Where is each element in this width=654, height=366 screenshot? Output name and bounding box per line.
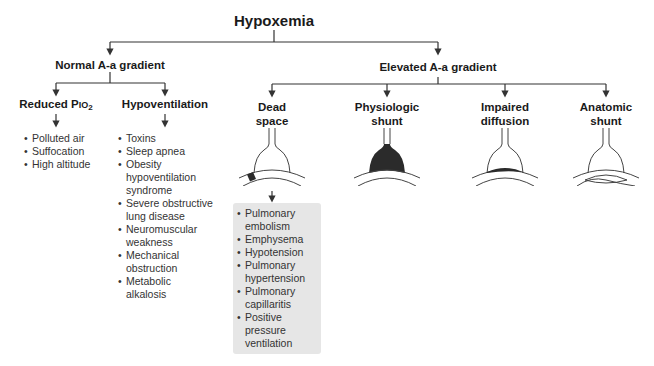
- normal-aa-gradient-node: Normal A-a gradient: [40, 58, 180, 72]
- list-item: Metabolic alkalosis: [118, 275, 214, 301]
- reduced-pio2-causes-list: Polluted air Suffocation High altitude: [24, 132, 104, 171]
- list-item: Suffocation: [24, 145, 104, 158]
- dead-space-label-line1: Dead: [232, 100, 312, 114]
- list-item: High altitude: [24, 158, 104, 171]
- elevated-aa-gradient-node: Elevated A-a gradient: [368, 60, 508, 74]
- list-item: Pulmonary capillaritis: [237, 285, 317, 311]
- reduced-pio2-node: Reduced PIO2: [6, 97, 106, 115]
- reduced-pio2-label: Reduced P: [19, 98, 78, 110]
- dead-space-label-line2: space: [232, 114, 312, 128]
- list-item: Pulmonary hypertension: [237, 259, 317, 285]
- anatomic-shunt-label-line1: Anatomic: [566, 100, 646, 114]
- list-item: Neuromuscular weakness: [118, 223, 214, 249]
- impaired-diffusion-label-line1: Impaired: [460, 100, 550, 114]
- alveolus-bypass-shunt-icon: [571, 128, 641, 186]
- list-item: Obesity hypoventilation syndrome: [118, 158, 214, 197]
- impaired-diffusion-label-line2: diffusion: [460, 114, 550, 128]
- impaired-diffusion-node: Impaired diffusion: [460, 100, 550, 128]
- list-item: Polluted air: [24, 132, 104, 145]
- dead-space-causes-box: Pulmonary embolism Emphysema Hypotension…: [233, 203, 321, 354]
- dead-space-causes-list: Pulmonary embolism Emphysema Hypotension…: [237, 207, 317, 350]
- physiologic-shunt-label-line2: shunt: [342, 114, 432, 128]
- list-item: Emphysema: [237, 233, 317, 246]
- root-title: Hypoxemia: [224, 12, 324, 29]
- alveolus-thickened-membrane-icon: [470, 128, 540, 186]
- physiologic-shunt-label-line1: Physiologic: [342, 100, 432, 114]
- list-item: Mechanical obstruction: [118, 249, 214, 275]
- reduced-pio2-io: IO: [79, 100, 89, 110]
- list-item: Toxins: [118, 132, 214, 145]
- list-item: Severe obstructive lung disease: [118, 197, 214, 223]
- connector-lines: [0, 0, 654, 366]
- hypoventilation-causes-list: Toxins Sleep apnea Obesity hypoventilati…: [118, 132, 214, 301]
- alveolus-filled-shunt-icon: [352, 128, 422, 186]
- physiologic-shunt-node: Physiologic shunt: [342, 100, 432, 128]
- anatomic-shunt-label-line2: shunt: [566, 114, 646, 128]
- dead-space-node: Dead space: [232, 100, 312, 128]
- list-item: Pulmonary embolism: [237, 207, 317, 233]
- hypoventilation-node: Hypoventilation: [115, 97, 215, 111]
- list-item: Positive pressure ventilation: [237, 311, 317, 350]
- list-item: Sleep apnea: [118, 145, 214, 158]
- reduced-pio2-subscript: 2: [88, 103, 92, 112]
- anatomic-shunt-node: Anatomic shunt: [566, 100, 646, 128]
- list-item: Hypotension: [237, 246, 317, 259]
- alveolus-dead-space-icon: [237, 128, 307, 186]
